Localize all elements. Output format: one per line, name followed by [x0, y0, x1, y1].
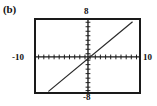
figure-panel-b: (b) — [0, 0, 157, 106]
y-axis-max-label: 8 — [84, 6, 89, 16]
plot-canvas — [36, 20, 139, 92]
plot-area — [34, 18, 141, 94]
y-axis-min-label: -8 — [83, 92, 91, 102]
panel-label: (b) — [3, 3, 16, 15]
x-axis-max-label: 10 — [143, 52, 152, 62]
x-axis-min-label: -10 — [12, 52, 24, 62]
